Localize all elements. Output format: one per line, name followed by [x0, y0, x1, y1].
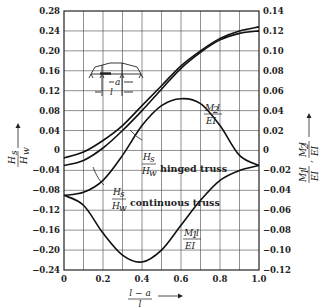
hinged-truss-annotation: H s H w hinged truss — [130, 130, 227, 178]
left-y-axis-label: H s H w — [7, 123, 31, 167]
x-axis-ticks: 00.20.40.60.81.0 — [61, 274, 266, 284]
right-tick-label: −0.02 — [263, 165, 291, 175]
x-tick-label: 1.0 — [252, 274, 267, 284]
right-tick-label: −0.08 — [263, 225, 291, 235]
svg-text:s: s — [150, 154, 155, 164]
left-tick-label: −0.16 — [32, 225, 60, 235]
right-tick-label: 0.04 — [263, 106, 284, 116]
svg-text:s: s — [9, 150, 19, 155]
right-tick-label: −0.12 — [263, 265, 291, 275]
left-tick-label: 0.04 — [39, 126, 60, 136]
hinged-truss-label: hinged truss — [160, 163, 227, 174]
right-tick-label: 0.02 — [263, 126, 284, 136]
svg-text:l − a: l − a — [129, 288, 151, 298]
svg-text:l: l — [298, 167, 308, 170]
left-tick-label: 0.24 — [39, 26, 60, 36]
continuous-truss-label: continuous truss — [130, 197, 220, 208]
svg-text:H: H — [19, 156, 29, 165]
x-tick-label: 0 — [61, 274, 67, 284]
left-tick-label: −0.20 — [32, 245, 60, 255]
right-tick-label: 0.12 — [263, 26, 284, 36]
svg-text:EI: EI — [205, 116, 217, 126]
left-axis-ticks: 0.280.240.200.160.120.080.040−0.04−0.08−… — [32, 6, 60, 275]
left-tick-label: −0.04 — [32, 165, 60, 175]
svg-text:l: l — [139, 299, 142, 308]
svg-text:EI: EI — [310, 145, 320, 157]
right-tick-label: 0.14 — [263, 6, 284, 16]
left-tick-label: −0.08 — [32, 185, 60, 195]
left-tick-label: −0.12 — [32, 205, 60, 215]
left-tick-label: 0.08 — [39, 106, 60, 116]
inset-a-label: a — [115, 77, 120, 87]
m1-annotation: M 1 l EI — [183, 228, 201, 251]
inset-l-label: l — [110, 87, 113, 97]
right-tick-label: 0.08 — [263, 66, 284, 76]
left-tick-label: 0.28 — [39, 6, 60, 16]
svg-text:EI: EI — [310, 170, 320, 182]
chart-canvas: 0.280.240.200.160.120.080.040−0.04−0.08−… — [0, 0, 321, 308]
svg-text:,: , — [304, 160, 314, 163]
x-tick-label: 0.2 — [96, 274, 111, 284]
x-tick-label: 0.6 — [174, 274, 189, 284]
svg-text:w: w — [21, 147, 31, 155]
left-tick-label: 0.20 — [39, 46, 60, 56]
svg-text:s: s — [120, 189, 125, 199]
svg-text:l: l — [217, 103, 220, 113]
right-tick-label: 0.06 — [263, 86, 284, 96]
left-tick-label: 0.12 — [39, 86, 60, 96]
right-tick-label: −0.06 — [263, 205, 291, 215]
svg-text:l: l — [196, 228, 199, 238]
svg-text:w: w — [149, 168, 157, 178]
svg-text:w: w — [119, 203, 127, 213]
svg-text:EI: EI — [184, 241, 196, 251]
right-tick-label: −0.04 — [263, 185, 291, 195]
x-tick-label: 0.4 — [135, 274, 150, 284]
left-tick-label: 0 — [54, 145, 60, 155]
left-tick-label: −0.24 — [32, 265, 60, 275]
svg-text:l: l — [298, 142, 308, 145]
x-tick-label: 0.8 — [213, 274, 228, 284]
right-tick-label: 0.10 — [263, 46, 284, 56]
right-y-axis-label: M 1 l EI , M 2 l EI — [298, 113, 320, 183]
right-tick-label: −0.10 — [263, 245, 291, 255]
right-axis-ticks: 0.140.120.100.080.060.040.020−0.02−0.04−… — [263, 6, 291, 275]
right-tick-label: 0 — [263, 145, 269, 155]
m2-annotation: M 2 l EI — [204, 103, 222, 126]
x-axis-label: l − a l — [128, 288, 183, 308]
svg-text:H: H — [7, 156, 17, 165]
left-tick-label: 0.16 — [39, 66, 60, 76]
